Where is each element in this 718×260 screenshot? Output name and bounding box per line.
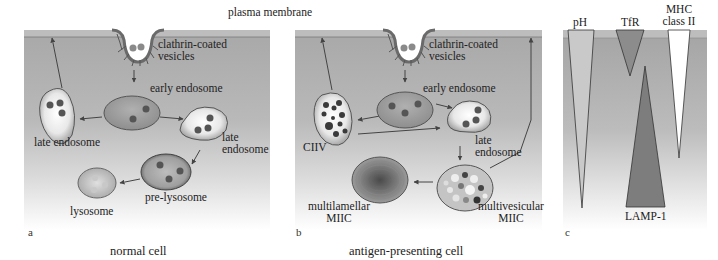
mhc-label: MHC — [654, 3, 704, 15]
late-label-a: late — [222, 131, 239, 143]
caption-antigen-presenting-cell: antigen-presenting cell — [349, 244, 463, 259]
ciiv-label-b: CIIV — [303, 141, 327, 153]
ph-label: pH — [573, 16, 587, 28]
pre-lysosome-a — [141, 154, 191, 190]
lysosome-label-a: lysosome — [70, 205, 113, 217]
early-endosome-a — [104, 96, 160, 130]
late-label-b: late — [475, 134, 492, 146]
vesicles-label-a: vesicles — [158, 50, 194, 62]
multivesicular-label-b: multivesicular — [466, 200, 556, 212]
early-endosome-label-a: early endosome — [150, 82, 223, 94]
panel-c-diagram — [563, 30, 707, 230]
multilamellar-miic-label-b: MIIC — [294, 212, 384, 224]
multivesicular-miic-label-b: MIIC — [466, 212, 556, 224]
late-endosome-left-label-a: late endosome — [34, 136, 100, 148]
vesicles-label-b: vesicles — [429, 50, 465, 62]
multilamellar-label-b: multilamellar — [294, 200, 384, 212]
class-ii-label: class II — [654, 15, 704, 27]
pre-lysosome-label-a: pre-lysosome — [145, 191, 207, 203]
clathrin-coated-label-b: clathrin-coated — [429, 38, 498, 50]
panel-letter-a: a — [28, 226, 33, 238]
panel-letter-c: c — [565, 226, 570, 238]
endosome-label-b: endosome — [475, 146, 522, 158]
lysosome-a — [78, 168, 116, 198]
multilamellar-miic-b — [352, 157, 408, 203]
lamp1-label: LAMP-1 — [625, 210, 667, 222]
early-endosome-label-b: early endosome — [423, 82, 496, 94]
plasma-membrane-label: plasma membrane — [228, 6, 312, 18]
clathrin-coated-label-a: clathrin-coated — [158, 38, 227, 50]
tfr-label: TfR — [621, 16, 640, 28]
panel-letter-b: b — [296, 226, 302, 238]
caption-normal-cell: normal cell — [110, 244, 167, 259]
endosome-label-a: endosome — [222, 143, 269, 155]
